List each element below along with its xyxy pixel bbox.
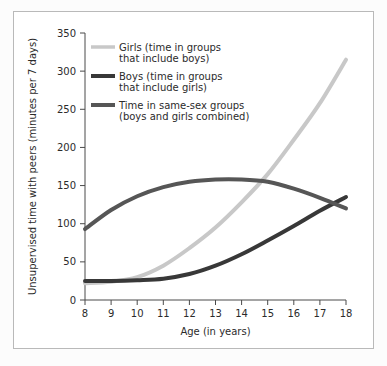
series-line-same-sex (85, 179, 346, 229)
y-axis-title: Unsupervised time with peers (minutes pe… (27, 38, 38, 295)
chart-legend: Girls (time in groups that include boys)… (91, 42, 249, 123)
legend-label-same-sex-line2: (boys and girls combined) (119, 111, 249, 122)
x-axis-title: Age (in years) (180, 326, 250, 337)
chart-plot: 0 50 100 150 200 250 300 350 8 9 10 11 1… (0, 0, 387, 366)
x-tick-labels: 8 9 10 11 12 13 14 15 16 17 18 (82, 308, 353, 319)
y-tick-label: 0 (70, 295, 76, 306)
legend-label-boys-line2: that include girls) (119, 82, 207, 93)
y-tick-label: 200 (57, 142, 76, 153)
y-tick-marks (80, 33, 85, 300)
legend-label-girls-line2: that include boys) (119, 53, 209, 64)
y-tick-label: 150 (57, 180, 76, 191)
series-line-girls-main (85, 60, 346, 284)
x-tick-label: 10 (131, 308, 144, 319)
legend-label-girls-line1: Girls (time in groups (119, 42, 221, 53)
legend-label-boys-line1: Boys (time in groups (119, 71, 223, 82)
y-tick-labels: 0 50 100 150 200 250 300 350 (57, 28, 76, 306)
x-tick-label: 14 (235, 308, 248, 319)
legend-label-same-sex-line1: Time in same-sex groups (118, 100, 244, 111)
x-tick-label: 9 (108, 308, 114, 319)
y-tick-label: 50 (63, 256, 76, 267)
x-tick-label: 15 (261, 308, 274, 319)
x-tick-marks (85, 300, 346, 305)
x-tick-label: 13 (209, 308, 222, 319)
x-tick-label: 18 (340, 308, 353, 319)
y-tick-label: 250 (57, 104, 76, 115)
y-tick-label: 300 (57, 66, 76, 77)
series-line-boys (85, 197, 346, 281)
x-tick-label: 17 (314, 308, 327, 319)
figure-container: 0 50 100 150 200 250 300 350 8 9 10 11 1… (0, 0, 387, 366)
x-tick-label: 8 (82, 308, 88, 319)
y-tick-label: 100 (57, 218, 76, 229)
x-tick-label: 12 (183, 308, 196, 319)
x-tick-label: 11 (157, 308, 170, 319)
x-tick-label: 16 (287, 308, 300, 319)
y-tick-label: 350 (57, 28, 76, 39)
